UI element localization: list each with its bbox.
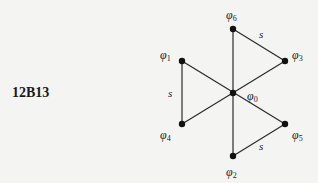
edge-label: s [259,28,263,40]
node-phi1 [179,58,185,64]
node-phi0 [230,90,236,96]
node-phi4 [179,121,185,127]
node-label-phi2: φ2 [226,165,237,180]
edge-label: s [168,87,172,99]
node-label-phi4: φ4 [160,128,171,143]
node-phi5 [282,121,288,127]
node-phi3 [282,58,288,64]
edge-label: s [259,140,263,152]
node-phi6 [230,26,236,32]
graph-canvas: sssφ0φ1φ2φ3φ4φ5φ6 [0,0,318,183]
node-phi2 [230,153,236,159]
node-label-phi3: φ3 [292,48,303,63]
node-label-phi6: φ6 [226,8,237,23]
node-label-phi0: φ0 [247,89,258,104]
node-label-phi5: φ5 [292,128,303,143]
node-label-phi1: φ1 [160,48,171,63]
